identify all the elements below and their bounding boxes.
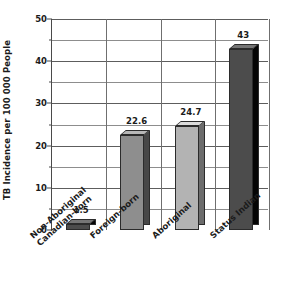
y-tick-label: 30 xyxy=(35,98,47,108)
y-tick-label: 40 xyxy=(35,56,47,66)
category-separator xyxy=(215,19,216,230)
y-axis-title-text: TB Incidence per 100 000 People xyxy=(2,40,12,200)
y-tick-major xyxy=(47,187,52,188)
y-tick-label: 50 xyxy=(35,14,47,24)
bar-chart: TB Incidence per 100 000 People 01020304… xyxy=(0,0,281,307)
bar[interactable]: 22.6 xyxy=(120,135,144,230)
bar-value-label: 24.7 xyxy=(180,107,201,117)
y-tick-label: 10 xyxy=(35,183,47,193)
y-tick-label: 20 xyxy=(35,141,47,151)
bar-front-face xyxy=(120,135,144,230)
bar-side-face xyxy=(199,121,205,225)
bar-value-label: 22.6 xyxy=(126,116,147,126)
bar-side-face xyxy=(144,130,150,225)
y-tick-minor xyxy=(49,82,52,83)
y-tick-minor xyxy=(49,124,52,125)
category-separator xyxy=(269,19,270,230)
category-separator xyxy=(161,19,162,230)
y-tick-major xyxy=(47,61,52,62)
y-tick-major xyxy=(47,19,52,20)
bar-front-face xyxy=(66,224,90,230)
y-tick-major xyxy=(47,103,52,104)
bar[interactable]: 1.5 xyxy=(66,224,90,230)
y-tick-minor xyxy=(49,40,52,41)
y-axis-title: TB Incidence per 100 000 People xyxy=(0,0,14,240)
category-separator xyxy=(106,19,107,230)
y-tick-major xyxy=(47,145,52,146)
y-tick-minor xyxy=(49,166,52,167)
bar-value-label: 43 xyxy=(237,30,249,40)
y-tick-minor xyxy=(49,208,52,209)
